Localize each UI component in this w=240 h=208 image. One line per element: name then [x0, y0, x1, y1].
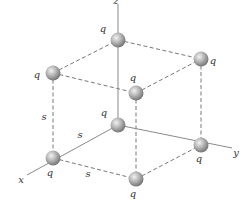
- side-length-label: s: [85, 168, 90, 179]
- charge-label-top-front: q: [130, 72, 136, 83]
- cube-edge-dashed: [53, 158, 136, 179]
- charge-sphere-bottom-left: [46, 151, 61, 166]
- side-length-label: s: [41, 111, 46, 122]
- diagram-labels: xyzqqqqqqqqsss: [18, 0, 239, 199]
- y-axis-label: y: [232, 147, 239, 158]
- charge-sphere-top-left: [46, 66, 61, 81]
- charge-label-top-right: q: [210, 55, 216, 66]
- point-charges: [46, 33, 209, 187]
- charge-sphere-bottom-front: [129, 172, 144, 187]
- x-axis: [27, 125, 118, 175]
- charge-label-top-left: q: [34, 69, 40, 80]
- charge-sphere-origin: [111, 118, 126, 133]
- x-axis-label: x: [18, 174, 24, 185]
- charge-label-bottom-left: q: [47, 167, 53, 178]
- y-axis: [118, 125, 232, 148]
- charge-sphere-top-back: [111, 33, 126, 48]
- cube-edges: [53, 40, 201, 179]
- side-length-label: s: [77, 129, 82, 140]
- cube-edge-dashed: [53, 40, 118, 73]
- charge-label-bottom-front: q: [130, 188, 136, 199]
- charge-sphere-bottom-right: [194, 138, 209, 153]
- cube-edge-dashed: [136, 59, 201, 93]
- charge-sphere-top-right: [194, 52, 209, 67]
- cube-edge-dashed: [118, 40, 201, 59]
- z-axis-label: z: [112, 0, 119, 6]
- cube-of-charges-diagram: xyzqqqqqqqqsss: [0, 0, 240, 208]
- cube-edge-dashed: [53, 73, 136, 93]
- cube-edge-dashed: [136, 145, 201, 179]
- charge-label-top-back: q: [100, 23, 106, 34]
- charge-sphere-top-front: [129, 86, 144, 101]
- charge-label-origin: q: [101, 107, 107, 118]
- charge-label-bottom-right: q: [196, 153, 202, 164]
